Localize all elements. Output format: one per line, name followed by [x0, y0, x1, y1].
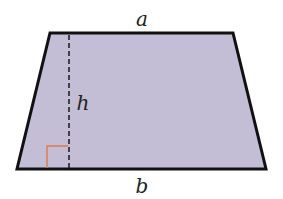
label-height: h [77, 91, 90, 115]
label-bottom-base: b [136, 174, 149, 198]
label-top-base: a [136, 7, 148, 31]
trapezoid-shape [17, 33, 266, 169]
trapezoid-diagram: a h b [0, 0, 283, 199]
